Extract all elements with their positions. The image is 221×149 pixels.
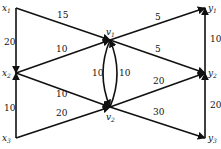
node-label-x3: x3 bbox=[2, 133, 11, 144]
node-label-v2: v2 bbox=[106, 112, 115, 123]
capacity-label-v1-y1: 5 bbox=[155, 12, 161, 22]
flow-network-diagram: 15201010102010105520301020 x1x2x3v1v2y1y… bbox=[0, 0, 221, 149]
edge-v2-v1 bbox=[110, 40, 117, 107]
edge-v1-v2 bbox=[103, 40, 110, 107]
capacity-label-x3-x2: 10 bbox=[4, 103, 16, 113]
network-graph: 15201010102010105520301020 x1x2x3v1v2y1y… bbox=[0, 0, 221, 149]
capacity-label-y3-y2: 20 bbox=[210, 100, 221, 110]
capacity-label-y2-y1: 10 bbox=[210, 34, 221, 44]
node-label-y3: y3 bbox=[207, 133, 217, 144]
node-labels: x1x2x3v1v2y1y2y3 bbox=[2, 3, 217, 144]
capacity-label-x2-v1: 10 bbox=[56, 44, 68, 54]
node-label-v1: v1 bbox=[106, 27, 115, 38]
capacity-label-v2-v1: 10 bbox=[119, 68, 131, 78]
capacity-label-x1-x2: 20 bbox=[4, 37, 16, 47]
capacity-label-v2-y3: 30 bbox=[153, 107, 165, 117]
node-label-x1: x1 bbox=[2, 3, 11, 14]
capacity-label-x1-v1: 15 bbox=[57, 10, 69, 20]
capacity-label-x2-v2: 10 bbox=[56, 89, 68, 99]
capacity-label-v2-y2: 20 bbox=[153, 76, 165, 86]
node-label-x2: x2 bbox=[2, 68, 11, 79]
node-label-y1: y1 bbox=[207, 3, 217, 14]
capacity-label-v1-v2: 10 bbox=[92, 68, 104, 78]
capacity-label-v1-y2: 5 bbox=[155, 44, 161, 54]
node-label-y2: y2 bbox=[207, 68, 217, 79]
capacity-label-x3-v2: 20 bbox=[56, 108, 68, 118]
